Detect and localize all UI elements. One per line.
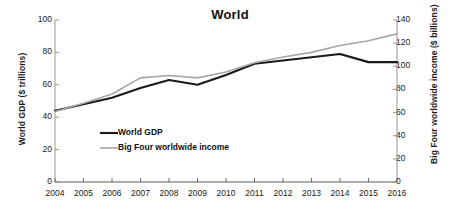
legend-item-big-four: Big Four worldwide income — [118, 142, 229, 152]
legend-label-0: World GDP — [118, 127, 163, 137]
legend-item-world-gdp: World GDP — [118, 127, 163, 137]
chart-figure: World World GDP ($ trillions) Big Four w… — [0, 0, 452, 218]
plot-area — [0, 0, 452, 218]
series-line-0 — [55, 54, 397, 111]
legend-label-1: Big Four worldwide income — [118, 142, 229, 152]
